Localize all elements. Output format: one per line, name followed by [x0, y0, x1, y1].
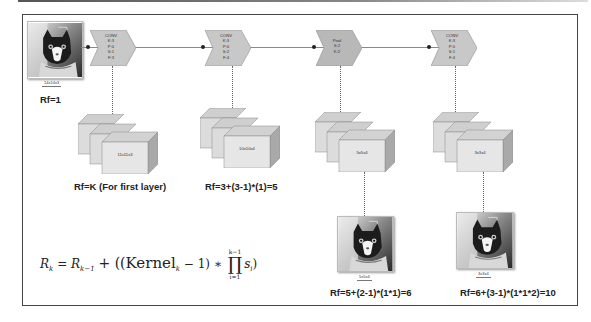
flow-line-down	[232, 66, 233, 108]
layer-param: F:4	[211, 55, 241, 60]
volume-size-label: 10x10x4	[224, 146, 270, 151]
layer-3-image-caption: 5x5x4	[357, 274, 372, 281]
flow-line	[81, 47, 471, 48]
layer-4-conv-block: CONV K:3 P:0 S:1 F:4	[431, 30, 477, 66]
layer-2-output-volume: 10x10x4	[200, 108, 280, 168]
product-operator: k−1 ∏ i=1	[228, 248, 242, 280]
formula-sub: k−1	[80, 265, 95, 273]
layer-4-image-caption: 3x3x4	[476, 271, 491, 278]
layer-3-output-image	[337, 216, 394, 272]
input-rf-label: Rf=1	[40, 94, 61, 105]
formula-term: R	[71, 257, 80, 271]
formula-op: − 1) ∗	[184, 257, 222, 271]
layer-1-output-volume: 11x11x3	[78, 114, 158, 174]
formula-sub: k	[176, 265, 180, 273]
volume-size-label: 11x11x3	[102, 152, 148, 157]
formula-kernel: Kernel	[126, 254, 176, 272]
flow-line-down	[483, 172, 484, 212]
layer-3-output-volume: 5x5x4	[315, 112, 395, 172]
receptive-field-formula: Rk = Rk−1 + ((Kernelk − 1) ∗ k−1 ∏ i=1 s…	[40, 248, 257, 280]
prod-symbol: ∏	[228, 253, 242, 274]
flow-line-down	[340, 66, 341, 114]
flow-line-down	[112, 66, 113, 114]
layer-param: F:3	[96, 55, 126, 60]
formula-lhs: R	[40, 257, 49, 271]
cat-photo-icon	[338, 217, 393, 271]
formula-sub: k	[49, 265, 53, 273]
volume-size-label: 5x5x4	[339, 150, 385, 155]
layer-2-conv-block: CONV K:3 P:0 S:2 F:4	[205, 30, 251, 66]
cat-photo-icon	[457, 213, 513, 268]
formula-op: )	[253, 257, 258, 271]
volume-size-label: 3x3x4	[457, 150, 503, 155]
cat-photo-icon	[28, 22, 82, 78]
layer-4-output-volume: 3x3x4	[433, 112, 513, 172]
layer-3-rf-label: Rf=5+(2-1)*(1*1)=6	[330, 287, 412, 298]
layer-1-rf-label: Rf=K (For first layer)	[74, 181, 166, 192]
layer-4-rf-label: Rf=6+(3-1)*(1*1*2)=10	[460, 287, 556, 298]
prod-lower: i=1	[228, 273, 242, 280]
layer-4-output-image	[456, 212, 514, 269]
flow-line-down	[364, 172, 365, 216]
formula-op: + ((	[98, 255, 125, 271]
input-image-caption: 14x14x3	[42, 80, 61, 87]
input-image	[27, 21, 83, 79]
layer-3-pool-block: Pool S:2 K:2	[316, 30, 362, 66]
layer-param: F:4	[437, 55, 467, 60]
formula-eq: =	[57, 257, 67, 271]
top-edge-line	[18, 0, 588, 2]
layer-1-conv-block: CONV K:3 P:0 S:1 F:3	[90, 30, 136, 66]
flow-line-down	[455, 66, 456, 114]
layer-2-rf-label: Rf=3+(3-1)*(1)=5	[205, 181, 278, 192]
layer-param: K:2	[322, 49, 352, 54]
